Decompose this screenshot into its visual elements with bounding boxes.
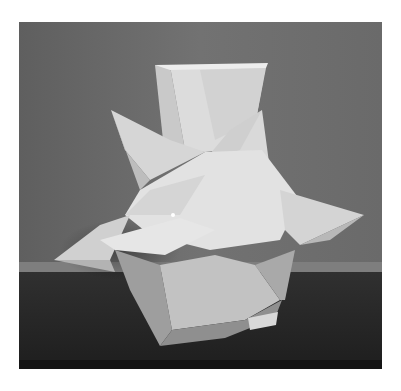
specular-highlight xyxy=(171,213,175,217)
sculpture-illustration xyxy=(19,22,382,369)
sculpture-photo xyxy=(19,22,382,369)
